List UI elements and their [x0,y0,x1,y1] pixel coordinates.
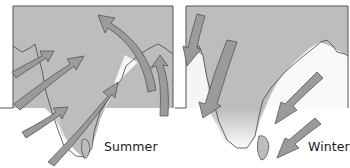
winter-panel: Winter [175,0,349,168]
summer-panel: Summer [0,0,175,168]
summer-label: Summer [104,139,158,154]
sri-lanka [257,136,269,160]
winter-label: Winter [308,139,350,154]
